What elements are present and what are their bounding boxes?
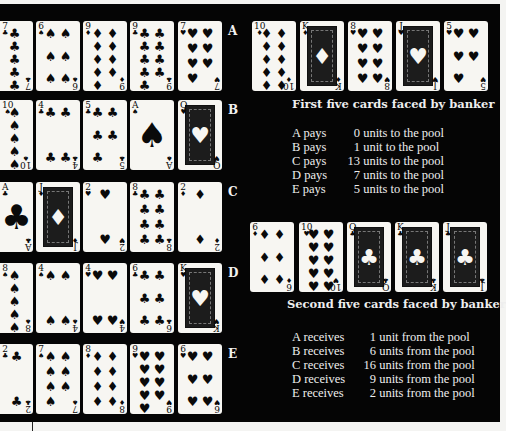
suit-pip-icon: ♦ — [106, 365, 119, 378]
suit-icon: ♦ — [85, 353, 91, 360]
suit-pip-icon: ♥ — [201, 373, 214, 386]
suit-pip-icon: ♥ — [371, 27, 384, 40]
suit-icon: ♥ — [180, 30, 186, 37]
suit-icon: ♥ — [480, 75, 486, 82]
suit-pip-icon: ♣ — [138, 218, 151, 231]
suit-pip-icon: ♣ — [106, 106, 119, 119]
suit-pip-icon: ♠ — [44, 50, 57, 63]
suit-icon: ♣ — [2, 191, 9, 198]
payments-ledger: A pays0 units to the pool B pays1 unit t… — [292, 126, 444, 196]
player-e-card-2: ♠♠♠♠♠♠♠7♠7♠ — [36, 344, 80, 414]
suit-pip-icon: ♥ — [186, 57, 199, 70]
suit-pip-icon: ♣ — [138, 188, 151, 201]
suit-pip-icon: ♣ — [153, 218, 166, 231]
suit-icon: ♣ — [430, 276, 437, 283]
player-c-card-5: ♦♦2♦2♦ — [178, 182, 222, 252]
player-label: E — [228, 347, 237, 361]
card-index: 2♦ — [214, 236, 220, 251]
card-pips: ♥♥ — [91, 188, 119, 246]
player-c-card-2: ♦J♦J♦ — [36, 182, 80, 252]
card-index: 7♥ — [214, 75, 220, 90]
receipt-row: D receives9 units from the pool — [292, 372, 475, 386]
suit-pip-icon: ♦ — [260, 79, 273, 91]
card-index: 8♥ — [350, 22, 356, 37]
suit-pip-icon: ♦ — [91, 79, 104, 91]
suit-pip-icon: ♣ — [10, 395, 23, 408]
suit-pip-icon: ♥ — [91, 269, 104, 282]
suit-icon: ♥ — [85, 191, 91, 198]
card-pips: ♦♦ — [186, 188, 214, 246]
suit-icon: ♥ — [180, 272, 187, 279]
banker-first-card-2: ♦K♦K♦ — [300, 21, 344, 91]
card-pips: ♠♠♠♠♠♠♠ — [44, 350, 72, 408]
suit-icon: ♥ — [398, 30, 404, 37]
player-label: B — [228, 103, 238, 117]
suit-icon: ♣ — [359, 245, 379, 270]
suit-pip-icon: ♠ — [59, 350, 72, 363]
ace-suit-icon: ♠ — [130, 110, 174, 160]
suit-icon: ♣ — [349, 231, 356, 238]
suit-icon: ♣ — [25, 75, 31, 82]
card-pips: ♥♥♥♥ — [91, 269, 119, 327]
suit-pip-icon: ♣ — [44, 106, 57, 119]
suit-pip-icon: ♦ — [273, 273, 286, 286]
suit-pip-icon: ♣ — [153, 292, 166, 305]
card-index: 7♣ — [2, 22, 8, 37]
suit-icon: ♦ — [48, 205, 68, 230]
court-figure-icon: ♣ — [402, 227, 432, 287]
receipts-ledger: A receives1 unit from the pool B receive… — [292, 330, 475, 400]
payment-row: A pays0 units to the pool — [292, 126, 444, 140]
suit-pip-icon: ♥ — [201, 42, 214, 55]
receipt-row: E receives2 units from the pool — [292, 386, 475, 400]
card-index: 5♥ — [480, 75, 486, 90]
banker-second-card-3: ♣Q♣Q♣ — [347, 222, 391, 292]
player-b-card-5: ♥Q♥Q♥ — [178, 100, 222, 170]
player-b-card-1: ♠♠♠♠♠♠♠♠♠♠10♠10♠ — [0, 100, 33, 170]
card-index: K♣ — [430, 276, 437, 291]
suit-pip-icon: ♣ — [10, 350, 23, 363]
card-index: 6♣ — [132, 264, 138, 279]
suit-pip-icon: ♥ — [371, 42, 384, 55]
card-index: Q♥ — [213, 154, 220, 169]
card-pips: ♥♥♥♥♥ — [452, 27, 480, 85]
suit-icon: ♥ — [446, 30, 452, 37]
suit-icon: ♦ — [85, 30, 91, 37]
suit-icon: ♣ — [166, 236, 172, 243]
suit-pip-icon: ♦ — [273, 228, 286, 241]
suit-icon: ♥ — [408, 44, 428, 69]
card-index: J♣ — [479, 276, 485, 291]
suit-icon: ♣ — [455, 245, 475, 270]
card-index: 10♠ — [20, 154, 31, 169]
suit-pip-icon: ♠ — [59, 269, 72, 282]
suit-pip-icon: ♣ — [138, 203, 151, 216]
court-figure-icon: ♣ — [354, 227, 384, 287]
suit-pip-icon: ♠ — [59, 27, 72, 40]
suit-pip-icon: ♠ — [44, 72, 57, 85]
suit-icon: ♦ — [286, 276, 292, 283]
suit-icon: ♣ — [85, 109, 91, 116]
suit-icon: ♠ — [2, 272, 8, 279]
suit-icon: ♣ — [166, 75, 172, 82]
suit-pip-icon: ♥ — [356, 27, 369, 40]
card-pips: ♣♣♣♣ — [44, 106, 72, 164]
suit-icon: ♥ — [190, 286, 210, 311]
card-index: 2♥ — [119, 236, 125, 251]
card-index: 8♦ — [119, 398, 125, 413]
banker-first-card-1: ♦♦♦♦♦♦♦♦♦♦10♦10♦ — [252, 21, 296, 91]
suit-pip-icon: ♣ — [153, 269, 166, 282]
suit-icon: ♦ — [214, 236, 220, 243]
card-index: A♣ — [2, 183, 9, 198]
suit-pip-icon: ♠ — [44, 269, 57, 282]
suit-icon: ♣ — [119, 154, 125, 161]
suit-pip-icon: ♥ — [356, 57, 369, 70]
suit-icon: ♣ — [132, 30, 138, 37]
banker-first-card-3: ♥♥♥♥♥♥♥♥8♥8♥ — [348, 21, 392, 91]
suit-pip-icon: ♣ — [44, 151, 57, 164]
card-index: Q♥ — [180, 101, 187, 116]
suit-icon: ♣ — [132, 191, 138, 198]
card-index: 6♥ — [214, 398, 220, 413]
suit-pip-icon: ♥ — [186, 27, 199, 40]
card-index: 10♥ — [301, 223, 312, 238]
suit-pip-icon: ♠ — [59, 314, 72, 327]
player-a-card-3: ♦♦♦♦♦♦♦♦♦9♦9♦ — [83, 21, 127, 91]
